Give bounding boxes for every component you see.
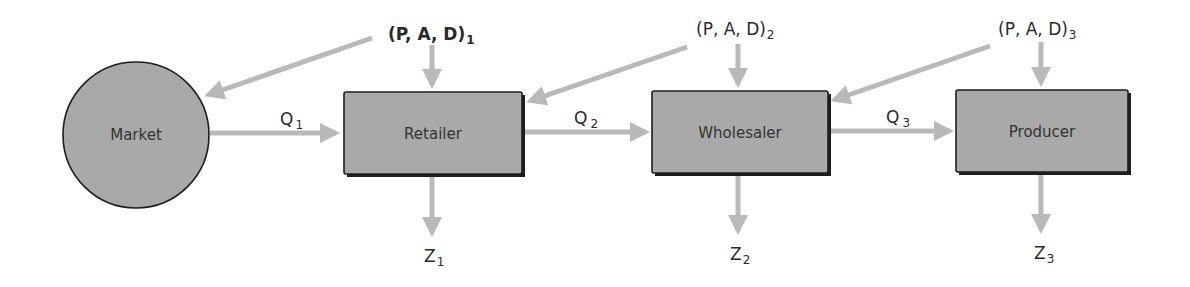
producer-label: Producer	[1009, 123, 1076, 141]
input-pad-2: (P, A, D)2	[530, 19, 775, 101]
q2-label: Q2	[574, 108, 598, 131]
wholesaler-label: Wholesaler	[698, 124, 782, 142]
output-z2: Z2	[730, 176, 750, 267]
pad1-label: (P, A, D)1	[388, 24, 475, 47]
flow-q2: Q2	[525, 108, 646, 132]
flow-q1: Q1	[210, 109, 336, 133]
pad2-label: (P, A, D)2	[696, 19, 775, 42]
output-z3: Z3	[1034, 175, 1054, 266]
distribution-channel-diagram: Market Retailer Wholesaler Producer Q1 Q…	[0, 0, 1190, 287]
wholesaler-node: Wholesaler	[652, 91, 831, 176]
input-pad-1: (P, A, D)1	[208, 24, 475, 95]
z3-label: Z3	[1034, 243, 1054, 266]
z1-label: Z1	[424, 246, 444, 269]
flow-q3: Q3	[831, 107, 950, 131]
market-node: Market	[63, 62, 209, 208]
input-pad-3: (P, A, D)3	[834, 19, 1077, 100]
q1-label: Q1	[280, 109, 303, 132]
pad3-label: (P, A, D)3	[998, 19, 1077, 42]
z2-label: Z2	[730, 244, 750, 267]
retailer-label: Retailer	[404, 125, 463, 143]
output-z1: Z1	[424, 177, 444, 269]
q3-label: Q3	[886, 107, 910, 130]
market-label: Market	[110, 126, 162, 144]
retailer-node: Retailer	[344, 92, 525, 177]
producer-node: Producer	[956, 90, 1131, 175]
arrow-diagonal-icon	[208, 38, 372, 95]
